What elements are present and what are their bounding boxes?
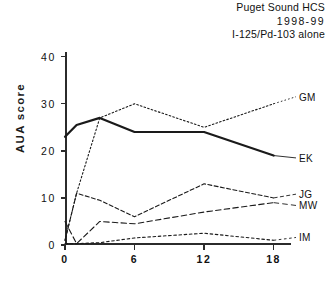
series-layer xyxy=(65,52,291,245)
y-tick-label-20: 20 xyxy=(41,145,56,157)
legend-label-im: IM xyxy=(299,232,311,243)
legend-leader-im xyxy=(274,237,296,240)
legend-leader-ek xyxy=(274,156,296,158)
chart-container: Puget Sound HCS 1998-99 I-125/Pd-103 alo… xyxy=(0,0,333,284)
legend-label-gm: GM xyxy=(299,91,316,102)
y-tick-label-10: 10 xyxy=(41,192,56,204)
series-line-ek xyxy=(65,118,274,156)
x-tick-6 xyxy=(134,245,135,250)
legend-label-jg: JG xyxy=(299,189,312,200)
y-axis-label: AUA score xyxy=(14,82,26,154)
series-line-im xyxy=(65,233,274,243)
title-line-treatment: I-125/Pd-103 alone xyxy=(232,28,325,42)
title-line-years: 1998-99 xyxy=(232,15,325,29)
x-tick-18 xyxy=(273,245,274,250)
title-line-organization: Puget Sound HCS xyxy=(232,1,325,15)
y-tick-40 xyxy=(61,56,66,57)
x-tick-label-6: 6 xyxy=(131,253,138,265)
legend-label-mw: MW xyxy=(299,200,317,211)
y-tick-20 xyxy=(61,150,66,151)
x-tick-12 xyxy=(203,245,204,250)
series-line-jg xyxy=(65,184,274,240)
y-tick-label-0: 0 xyxy=(49,239,56,251)
y-tick-label-40: 40 xyxy=(41,51,56,63)
legend-leader-gm xyxy=(274,97,296,104)
x-tick-label-0: 0 xyxy=(61,253,68,265)
plot-area: 010203040061218GMEKJGMWIM xyxy=(65,52,291,245)
x-tick-label-12: 12 xyxy=(197,253,212,265)
y-tick-10 xyxy=(61,197,66,198)
y-tick-30 xyxy=(61,103,66,104)
legend-label-ek: EK xyxy=(299,152,313,163)
legend-leader-mw xyxy=(274,203,296,206)
x-tick-0 xyxy=(64,245,65,250)
chart-title-block: Puget Sound HCS 1998-99 I-125/Pd-103 alo… xyxy=(232,1,325,42)
series-line-gm xyxy=(65,104,274,241)
x-tick-label-18: 18 xyxy=(266,253,281,265)
legend-leader-jg xyxy=(274,194,296,198)
y-tick-label-30: 30 xyxy=(41,98,56,110)
